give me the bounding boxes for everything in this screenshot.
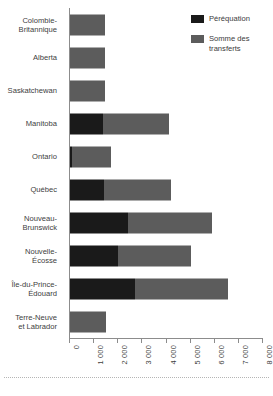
stacked-bar (70, 278, 228, 299)
chart-row: Nouvelle- Écosse (69, 239, 262, 272)
stacked-bar (70, 311, 106, 332)
x-tick (190, 338, 191, 343)
bar-segment-somme-des-transferts (70, 47, 105, 68)
category-label: Colombie- Britannique (0, 15, 57, 33)
legend-swatch-perequation (191, 15, 204, 23)
bar-segment-perequation (70, 245, 118, 266)
category-label: Saskatchewan (0, 86, 57, 95)
bar-segment-somme-des-transferts (70, 311, 106, 332)
bar-segment-somme-des-transferts (70, 80, 105, 101)
footer-divider (4, 377, 269, 378)
x-tick-label: 5 000 (193, 345, 202, 365)
x-tick-label: 2 000 (120, 345, 129, 365)
x-tick-label: 8 000 (265, 345, 273, 365)
bar-segment-somme-des-transferts (104, 179, 172, 200)
x-tick (141, 338, 142, 343)
x-tick-label: 3 000 (144, 345, 153, 365)
chart-row: Ontario (69, 140, 262, 173)
stacked-bar (70, 212, 212, 233)
category-label: Terre-Neuve et Labrador (0, 312, 57, 330)
stacked-bar (70, 14, 105, 35)
chart-row: Saskatchewan (69, 74, 262, 107)
bar-segment-somme-des-transferts (70, 14, 105, 35)
x-tick (262, 338, 263, 343)
legend-item-somme-des-transferts: Somme des transferts (191, 34, 273, 53)
x-tick-label: 7 000 (241, 345, 250, 365)
bar-segment-perequation (70, 212, 128, 233)
category-label: Québec (0, 185, 57, 194)
x-tick (69, 338, 70, 343)
stacked-bar (70, 179, 171, 200)
chart-row: Québec (69, 173, 262, 206)
stacked-bar (70, 80, 105, 101)
x-tick-label: 1 000 (96, 345, 105, 365)
chart-row: Manitoba (69, 107, 262, 140)
stacked-bar (70, 47, 105, 68)
stacked-bar (70, 146, 111, 167)
chart-row: Terre-Neuve et Labrador (69, 305, 262, 338)
bar-segment-somme-des-transferts (118, 245, 190, 266)
legend-label-somme-des-transferts: Somme des transferts (209, 34, 250, 53)
stacked-bar (70, 245, 191, 266)
stacked-bar (70, 113, 169, 134)
legend-item-perequation: Péréquation (191, 14, 273, 23)
category-label: Nouveau- Brunswick (0, 213, 57, 231)
x-tick (238, 338, 239, 343)
x-tick (93, 338, 94, 343)
bar-segment-somme-des-transferts (103, 113, 169, 134)
legend-label-perequation: Péréquation (209, 14, 250, 23)
bar-segment-perequation (70, 278, 135, 299)
bar-segment-perequation (70, 113, 103, 134)
x-tick (117, 338, 118, 343)
chart-legend: Péréquation Somme des transferts (191, 14, 273, 64)
category-label: Île-du-Prince- Édouard (0, 279, 57, 297)
legend-swatch-somme-des-transferts (191, 35, 204, 43)
category-label: Manitoba (0, 119, 57, 128)
x-tick-label: 0 (72, 345, 81, 349)
chart-row: Île-du-Prince- Édouard (69, 272, 262, 305)
bar-chart: Colombie- BritanniqueAlbertaSaskatchewan… (0, 0, 273, 396)
bar-segment-somme-des-transferts (72, 146, 111, 167)
bar-segment-somme-des-transferts (135, 278, 228, 299)
bar-segment-somme-des-transferts (128, 212, 212, 233)
x-tick (214, 338, 215, 343)
category-label: Alberta (0, 53, 57, 62)
footer-note (6, 385, 266, 396)
chart-row: Nouveau- Brunswick (69, 206, 262, 239)
x-tick (166, 338, 167, 343)
category-label: Nouvelle- Écosse (0, 246, 57, 264)
bar-segment-perequation (70, 179, 104, 200)
category-label: Ontario (0, 152, 57, 161)
x-tick-label: 4 000 (169, 345, 178, 365)
x-tick-label: 6 000 (217, 345, 226, 365)
